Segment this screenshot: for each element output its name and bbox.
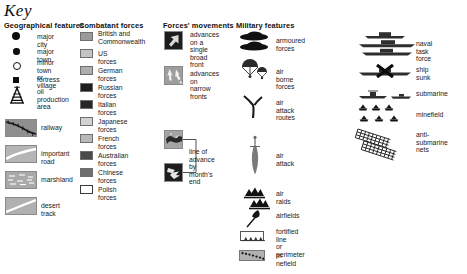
line-of-advance-light-icon [164, 130, 183, 149]
force-swatch-polish [80, 185, 93, 194]
legend-label: minor town or village [37, 59, 56, 89]
legend-label: air borne forces [276, 68, 295, 91]
legend-label: submarine [416, 90, 448, 98]
force-swatch-japanese [80, 117, 93, 126]
legend-label: marshland [41, 176, 73, 184]
force-swatch-german [80, 66, 93, 75]
legend-label: naval task force [416, 40, 432, 63]
legend-label: airfields [276, 212, 299, 220]
legend-label: British and Commonwealth [98, 30, 145, 45]
legend-label: German forces [98, 67, 123, 82]
minefield-stars-icon [358, 104, 410, 126]
page-title: Key [4, 1, 32, 21]
narrow-arrows-icon [164, 66, 183, 85]
legend-label: railway [41, 124, 62, 132]
legend-label: Polish forces [98, 186, 117, 201]
air-raids-icon [241, 185, 273, 211]
oil-derrick-icon [9, 85, 25, 104]
legend-label: armoured forces [276, 37, 305, 52]
legend-label: air attack routes [276, 99, 295, 122]
filled-circle-small-icon [13, 48, 20, 55]
airborne-forces-icon [240, 60, 270, 82]
legend-label: air raids [276, 190, 291, 205]
armoured-forces-icon [239, 30, 269, 52]
header-military-features: Military features [236, 21, 294, 30]
key-legend-panel: Key Geographical features Combatant forc… [0, 0, 467, 274]
force-swatch-chinese [80, 168, 93, 177]
naval-task-force-icon [357, 29, 419, 61]
legend-label: m nefield [276, 252, 296, 267]
legend-label: Italian forces [98, 101, 117, 116]
legend-label: anti-submarine nets [416, 131, 448, 154]
air-attack-routes-icon [242, 94, 268, 120]
legend-label: French forces [98, 135, 119, 150]
submarine-icon [357, 89, 413, 103]
filled-square-icon [13, 77, 19, 83]
filled-circle-large-icon [12, 32, 20, 40]
legend-label: US forces [98, 50, 117, 65]
header-forces-movements: Forces' movements [163, 21, 234, 30]
open-circle-icon [13, 62, 21, 70]
legend-label: minefield [416, 111, 443, 119]
force-swatch-italian [80, 100, 93, 109]
legend-label: desert track [41, 202, 60, 217]
legend-label: oil production area [37, 88, 69, 111]
ship-sunk-icon [357, 63, 413, 81]
force-swatch-french [80, 134, 93, 143]
legend-label: Australian forces [98, 152, 128, 167]
legend-label: fortress [37, 76, 60, 84]
legend-label: Russian forces [98, 84, 123, 99]
header-combatant-forces: Combatant forces [79, 21, 143, 30]
legend-label: air attack [276, 152, 294, 167]
legend-label: important road [41, 150, 69, 165]
legend-label: Chinese forces [98, 169, 123, 184]
railway-swatch-icon [5, 119, 37, 137]
legend-label: ship sunk [416, 66, 430, 81]
minefield-box-icon [239, 250, 265, 261]
legend-label: major city [37, 33, 54, 48]
broad-arrow-icon [164, 31, 183, 50]
force-swatch-us [80, 49, 93, 58]
air-attack-icon [247, 135, 263, 175]
desert-track-swatch-icon [5, 197, 37, 215]
legend-label: advances on narrow fronts [190, 70, 219, 100]
force-swatch-russian [80, 83, 93, 92]
legend-label: advances on a single broad front [190, 31, 219, 69]
legend-label: line of advance by month's end [189, 148, 215, 186]
important-road-swatch-icon [5, 145, 37, 163]
fortified-line-icon [240, 231, 264, 241]
line-of-advance-dark-icon [164, 163, 183, 182]
anti-submarine-nets-icon [356, 128, 412, 158]
marshland-swatch-icon [5, 171, 37, 189]
airfields-icon [245, 209, 267, 229]
force-swatch-british [80, 32, 93, 41]
header-geographical-features: Geographical features [4, 21, 84, 30]
force-swatch-australian [80, 151, 93, 160]
legend-label: Japanese forces [98, 118, 127, 133]
